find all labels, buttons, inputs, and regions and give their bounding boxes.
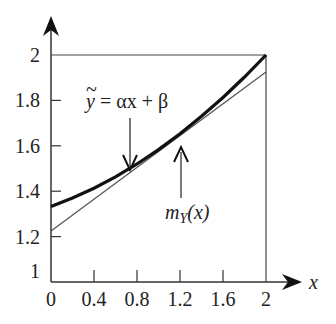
curve-label: mY(x) <box>165 201 210 226</box>
x-tick-label: 2 <box>261 288 271 310</box>
regression-curve <box>51 55 266 206</box>
y-tick-label: 1.8 <box>15 89 40 111</box>
y-tick-label: 1.2 <box>15 226 40 248</box>
y-tick-label: 1.4 <box>15 180 40 202</box>
tilde-mark: ~ <box>86 78 97 100</box>
y-tick-label: 2 <box>30 44 40 66</box>
x-tick-label: 0.8 <box>125 288 150 310</box>
x-tick-label: 0 <box>46 288 56 310</box>
y-ticks: 11.21.41.61.82 <box>15 44 61 282</box>
x-axis-label: x <box>308 271 318 293</box>
y-tick-label: 1 <box>30 260 40 282</box>
chart: 00.40.81.21.62 11.21.41.61.82 y = αx + β… <box>0 0 336 324</box>
y-tick-label: 1.6 <box>15 135 40 157</box>
x-tick-label: 1.2 <box>168 288 193 310</box>
x-tick-label: 1.6 <box>211 288 236 310</box>
x-ticks: 00.40.81.21.62 <box>46 270 271 310</box>
x-tick-label: 0.4 <box>82 288 107 310</box>
